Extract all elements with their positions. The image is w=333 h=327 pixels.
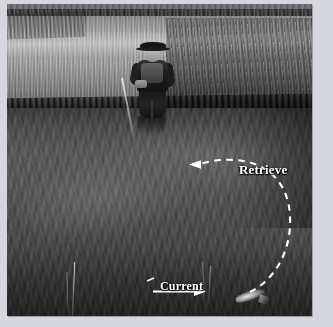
angler-reflection [138, 116, 166, 134]
water-shadow-right [221, 108, 313, 228]
water-shadow-bottom [7, 246, 312, 316]
angler-leg-split [151, 100, 153, 118]
figure-frame: Retrieve Current [0, 0, 333, 327]
angler [125, 42, 183, 120]
reed-clump-left [7, 11, 86, 40]
photograph: Retrieve Current [7, 4, 312, 316]
angler-hands [135, 80, 147, 88]
angler-hat-brim [136, 47, 170, 51]
angler-face [145, 50, 160, 62]
